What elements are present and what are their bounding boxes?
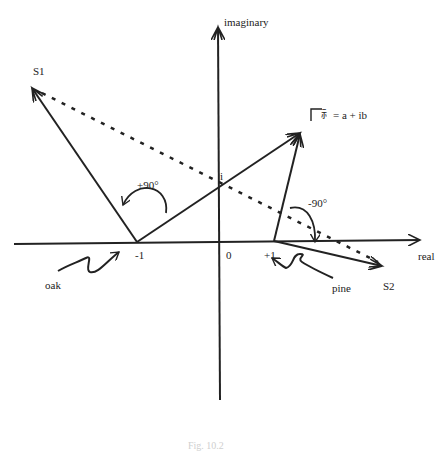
point-s1-label: S1 (33, 66, 45, 77)
diagram-graphics (0, 0, 447, 453)
tick-label-i: i (220, 171, 223, 182)
vector-plus1-to-z (274, 134, 300, 241)
real-axis-label: real (418, 251, 434, 262)
imaginary-axis-label: imaginary (224, 17, 269, 28)
pine-wavy-arrow (272, 254, 333, 278)
equation-symbol: ⺬ (321, 109, 332, 120)
oak-wavy-arrow (58, 252, 119, 272)
imaginary-axis (218, 27, 220, 400)
real-axis (14, 240, 420, 244)
rotation-plus90-arc (123, 188, 166, 213)
angle-plus90-label: +90° (137, 180, 159, 191)
oak-label: oak (45, 280, 61, 291)
pine-label: pine (332, 283, 351, 294)
vector-plus1-to-s2 (274, 241, 382, 266)
tick-label-origin: 0 (226, 250, 232, 261)
vector-minus1-to-s1 (32, 88, 137, 242)
point-s2-label: S2 (383, 281, 395, 292)
complex-plane-diagram: imaginary real S1 S2 ⺬ = a + ib i 0 -1 +… (0, 0, 447, 453)
equation-text: = a + ib (333, 110, 367, 121)
angle-minus90-label: -90° (308, 198, 327, 209)
tick-label-plus-one: +1 (264, 250, 276, 261)
rotation-minus90-arc (290, 207, 315, 242)
figure-caption: Fig. 10.2 (188, 440, 224, 451)
tick-label-minus-one: -1 (135, 250, 144, 261)
